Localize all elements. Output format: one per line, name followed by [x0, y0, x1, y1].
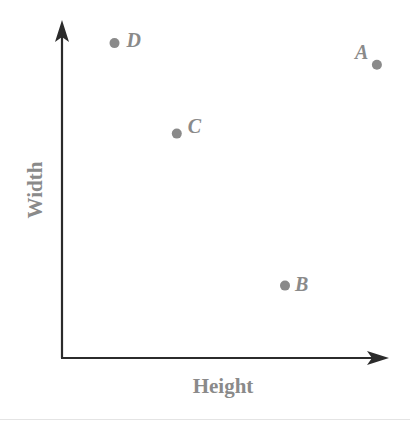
point-label-b: B [294, 273, 308, 295]
x-axis-label: Height [193, 374, 254, 398]
data-points: ABCD [110, 29, 382, 295]
data-point-d [110, 38, 120, 48]
point-label-c: C [188, 115, 202, 137]
scatter-chart: Height Width ABCD [0, 0, 410, 422]
data-point-c [172, 129, 182, 139]
point-label-a: A [353, 41, 368, 63]
data-point-a [372, 60, 382, 70]
data-point-b [280, 281, 290, 291]
point-label-d: D [126, 29, 141, 51]
axes [55, 20, 389, 365]
bottom-divider [0, 419, 410, 420]
y-axis-label: Width [23, 161, 47, 218]
